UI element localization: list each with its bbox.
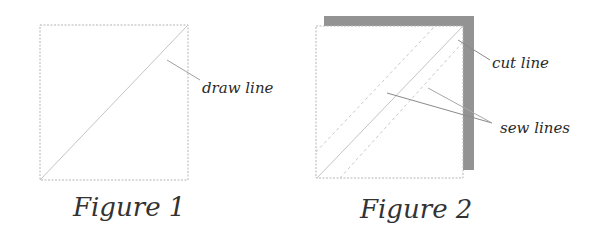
figure-1-caption: Figure 1: [72, 192, 185, 222]
draw-line-label: draw line: [202, 79, 274, 97]
quilting-diagram: draw line Figure 1 cut line sew lines Fi…: [0, 0, 591, 236]
figure-2-caption: Figure 2: [359, 194, 472, 224]
figure-1: draw line Figure 1: [40, 25, 274, 222]
cut-line-label: cut line: [492, 54, 549, 72]
sew-lines-label: sew lines: [500, 119, 570, 137]
figure-2: cut line sew lines Figure 2: [316, 16, 570, 224]
